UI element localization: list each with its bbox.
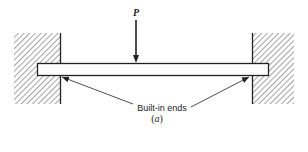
leader-right [191,77,249,107]
built-in-ends-label: Built-in ends [137,103,187,113]
beam [38,64,269,76]
leader-left [62,77,133,104]
figure-caption: (a) [151,113,163,125]
fixed-beam-diagram: P Built-in ends (a) [0,0,308,152]
load-arrow [133,20,139,63]
load-label: P [133,7,140,18]
